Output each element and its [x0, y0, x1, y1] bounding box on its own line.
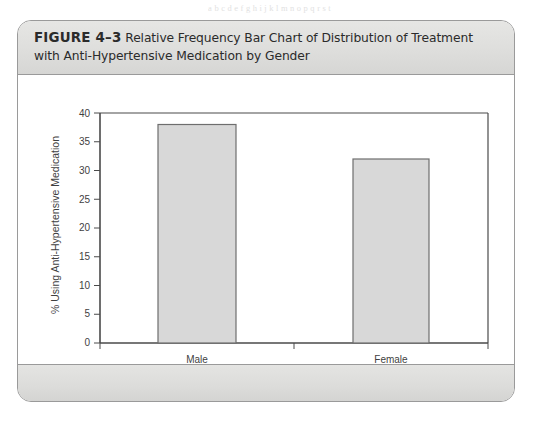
- y-tick-label-15: 15: [79, 251, 91, 262]
- figure-header: FIGURE 4–3 Relative Frequency Bar Chart …: [18, 21, 514, 75]
- figure-label: FIGURE 4–3: [34, 30, 121, 45]
- y-tick-label-40: 40: [79, 108, 91, 119]
- bar-female: [353, 159, 429, 343]
- figure-title: FIGURE 4–3 Relative Frequency Bar Chart …: [34, 29, 498, 65]
- figure-card: FIGURE 4–3 Relative Frequency Bar Chart …: [17, 20, 515, 402]
- y-tick-label-25: 25: [79, 194, 91, 205]
- bar-male: [158, 125, 236, 344]
- bar-chart: % Using Anti-Hypertensive Medication 40 …: [18, 75, 514, 365]
- x-tick-marks: [100, 343, 488, 349]
- figure-footer: [18, 364, 514, 401]
- y-tick-label-30: 30: [79, 165, 91, 176]
- figure-body: % Using Anti-Hypertensive Medication 40 …: [18, 75, 514, 365]
- y-tick-label-0: 0: [84, 337, 90, 348]
- bar-chart-svg: % Using Anti-Hypertensive Medication 40 …: [18, 75, 513, 365]
- y-tick-label-5: 5: [84, 308, 90, 319]
- y-tick-label-20: 20: [79, 222, 91, 233]
- y-tick-label-35: 35: [79, 136, 91, 147]
- y-tick-marks: [94, 113, 100, 343]
- y-tick-label-10: 10: [79, 280, 91, 291]
- page-bleed-text: a b c d e f g h i j k l m n o p q r s t: [0, 0, 539, 14]
- y-axis-title: % Using Anti-Hypertensive Medication: [49, 136, 61, 314]
